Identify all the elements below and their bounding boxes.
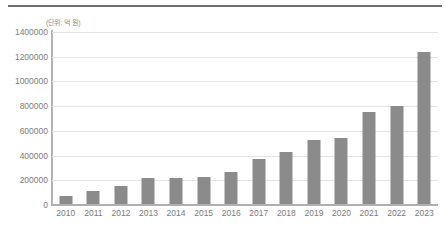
x-axis-tick-label: 2012 <box>111 208 130 218</box>
bar <box>363 112 376 205</box>
bar-slot <box>300 32 328 205</box>
y-axis-tick-labels: 0200000400000600000800000100000012000001… <box>0 0 48 237</box>
bar <box>170 178 183 205</box>
bar <box>280 152 293 205</box>
plot-area <box>52 32 438 205</box>
bar-slot <box>355 32 383 205</box>
bar-slot <box>52 32 80 205</box>
y-axis-tick-label: 200000 <box>2 175 48 185</box>
bar-slot <box>162 32 190 205</box>
y-axis-tick-label: 1400000 <box>2 27 48 37</box>
x-axis-tick-label: 2013 <box>139 208 158 218</box>
y-axis-tick-label: 0 <box>2 200 48 210</box>
x-axis-tick-label: 2015 <box>194 208 213 218</box>
x-axis-tick-label: 2018 <box>277 208 296 218</box>
x-axis-tick-label: 2014 <box>167 208 186 218</box>
y-axis-tick-label: 800000 <box>2 101 48 111</box>
bar-slot <box>273 32 301 205</box>
bar-slot <box>328 32 356 205</box>
x-axis-tick-label: 2017 <box>249 208 268 218</box>
bar-slot <box>217 32 245 205</box>
bar <box>335 138 348 205</box>
bar <box>114 186 127 205</box>
x-axis-tick-label: 2021 <box>360 208 379 218</box>
bar-slot <box>80 32 108 205</box>
y-axis-tick-label: 400000 <box>2 151 48 161</box>
x-axis-tick-label: 2016 <box>222 208 241 218</box>
header-divider <box>8 5 442 7</box>
x-axis-tick-label: 2022 <box>387 208 406 218</box>
bar <box>307 140 320 205</box>
bar <box>197 177 210 205</box>
y-axis-tick-label: 1200000 <box>2 52 48 62</box>
chart-figure: (단위: 억 원) 020000040000060000080000010000… <box>0 0 446 237</box>
x-axis-tick-label: 2019 <box>304 208 323 218</box>
bar-slot <box>190 32 218 205</box>
x-axis-tick-label: 2010 <box>56 208 75 218</box>
bar <box>87 191 100 205</box>
bar <box>418 52 431 205</box>
x-axis-tick-label: 2011 <box>84 208 102 218</box>
x-axis-tick-label: 2023 <box>415 208 434 218</box>
y-axis-tick-label: 1000000 <box>2 76 48 86</box>
bar-slot <box>107 32 135 205</box>
x-axis-tick-label: 2020 <box>332 208 351 218</box>
bar <box>252 159 265 205</box>
bar-slot <box>383 32 411 205</box>
bar <box>390 106 403 205</box>
bar-slot <box>410 32 438 205</box>
bar <box>142 178 155 205</box>
bar-slot <box>135 32 163 205</box>
x-axis-tick-labels: 2010201120122013201420152016201720182019… <box>52 208 438 228</box>
unit-note-label: (단위: 억 원) <box>46 17 81 27</box>
bar <box>225 172 238 205</box>
bar-slot <box>245 32 273 205</box>
x-axis-line <box>52 204 438 206</box>
y-axis-tick-label: 600000 <box>2 126 48 136</box>
